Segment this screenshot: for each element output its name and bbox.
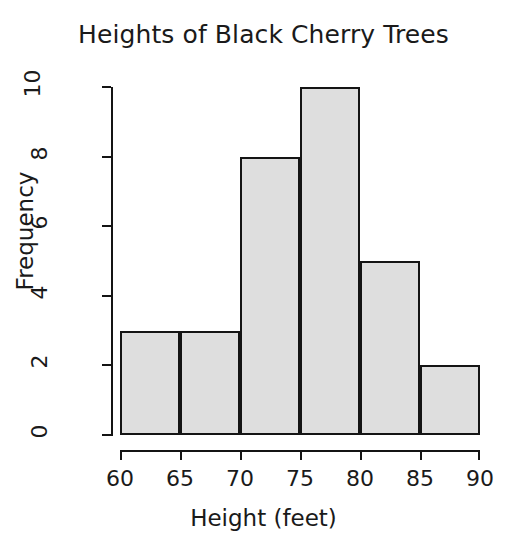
x-axis-tick bbox=[360, 450, 362, 460]
y-axis-tick bbox=[102, 434, 111, 436]
histogram-bar bbox=[420, 365, 480, 435]
chart-title: Heights of Black Cherry Trees bbox=[0, 20, 527, 49]
x-axis-tick-label: 90 bbox=[450, 466, 510, 491]
y-axis-tick-label: 6 bbox=[0, 210, 46, 235]
y-axis-tick-label: 10 bbox=[0, 71, 46, 96]
x-axis-tick-label: 75 bbox=[270, 466, 330, 491]
x-axis-tick bbox=[120, 450, 122, 460]
x-axis-tick bbox=[300, 450, 302, 460]
y-axis-tick bbox=[102, 225, 111, 227]
y-axis-tick bbox=[102, 156, 111, 158]
x-axis-tick bbox=[180, 450, 182, 460]
x-axis-tick-label: 85 bbox=[390, 466, 450, 491]
x-axis-title: Height (feet) bbox=[0, 505, 527, 531]
x-axis-tick-label: 60 bbox=[90, 466, 150, 491]
y-axis-tick-label: 8 bbox=[0, 141, 46, 166]
plot-area bbox=[120, 87, 480, 435]
y-axis-tick-label: 0 bbox=[0, 419, 46, 444]
x-axis-tick-label: 65 bbox=[150, 466, 210, 491]
x-axis-tick-label: 80 bbox=[330, 466, 390, 491]
histogram-bar bbox=[120, 331, 180, 435]
y-axis-tick bbox=[102, 295, 111, 297]
histogram-bar bbox=[240, 157, 300, 435]
x-axis-tick bbox=[420, 450, 422, 460]
x-axis-tick-label: 70 bbox=[210, 466, 270, 491]
y-axis-spine bbox=[111, 87, 113, 436]
histogram-bar bbox=[360, 261, 420, 435]
y-axis-tick-label: 4 bbox=[0, 280, 46, 305]
histogram-bar bbox=[300, 87, 360, 435]
x-axis-tick bbox=[478, 450, 480, 460]
x-axis-tick bbox=[240, 450, 242, 460]
histogram-figure: Heights of Black Cherry Trees Frequency … bbox=[0, 0, 527, 559]
y-axis-tick bbox=[102, 364, 111, 366]
y-axis-tick bbox=[102, 86, 111, 88]
y-axis-tick-label: 2 bbox=[0, 349, 46, 374]
histogram-bar bbox=[180, 331, 240, 435]
